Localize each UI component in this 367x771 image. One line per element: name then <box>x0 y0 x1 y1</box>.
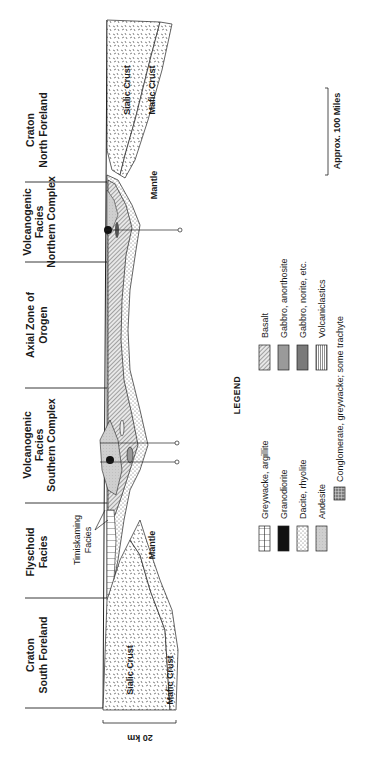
legend-label-andesite: Andesite <box>317 484 327 519</box>
legend: LEGEND Greywacke, argillite Granodiorite… <box>232 258 345 551</box>
label-mantle-south: Mantle <box>147 531 157 560</box>
scale-horizontal-label: Approx. 100 Miles <box>332 93 342 170</box>
label-timiskaming-line2: Facies <box>83 526 93 553</box>
legend-swatch-volcaniclastics <box>316 345 327 370</box>
zone-craton-north-line1: Craton <box>24 113 36 147</box>
scale-vertical-label: 20 km <box>127 733 153 743</box>
granodiorite-south <box>106 456 114 464</box>
scale-bar-horizontal: Approx. 100 Miles <box>325 88 342 175</box>
zone-volc-south-line2: Facies <box>33 429 45 462</box>
surface-line <box>103 20 107 708</box>
zone-volc-north-line1: Volcanogenic <box>21 188 33 256</box>
timiskaming-pointer <box>95 510 108 530</box>
legend-label-greywacke: Greywacke, argillite <box>260 440 270 519</box>
legend-swatch-granodiorite <box>278 526 289 551</box>
zone-volc-north-line2: Facies <box>33 206 45 239</box>
legend-swatch-gabbro-norite <box>297 345 308 370</box>
label-mafic-crust-south: Mafic Crust <box>165 655 175 704</box>
geological-cross-section: Craton North Foreland Volcanogenic Facie… <box>0 0 367 771</box>
zone-volc-south-line3: Southern Complex <box>45 398 57 492</box>
label-mafic-crust-north: Mafic Crust <box>147 65 157 114</box>
legend-swatch-basalt <box>259 345 270 370</box>
legend-label-dacite: Dacite, rhyolite <box>298 459 308 519</box>
legend-label-gabbro-anorthosite: Gabbro, anorthosite <box>279 258 289 338</box>
label-sialic-crust-south: Sialic Crust <box>125 645 135 695</box>
zone-flyschoid-line1: Flyschoid <box>24 527 36 576</box>
legend-label-conglomerate: Conglomerate, greywacke; some trachyte <box>335 316 345 482</box>
legend-label-gabbro-norite: Gabbro, norite, etc. <box>298 261 308 338</box>
zone-flyschoid-line2: Facies <box>37 536 49 569</box>
gabbro-lens-south-b <box>127 447 133 463</box>
scale-bar-vertical: 20 km <box>103 720 176 743</box>
label-sialic-crust-north: Sialic Crust <box>122 65 132 115</box>
legend-label-volcaniclastics: Volcaniclastics <box>317 279 327 338</box>
zone-axial-line1: Axial Zone of <box>24 292 36 358</box>
zone-labels: Craton North Foreland Volcanogenic Facie… <box>21 92 57 693</box>
legend-swatch-dacite <box>297 526 308 551</box>
zone-craton-south-line2: South Foreland <box>37 617 49 694</box>
label-mantle-north: Mantle <box>149 171 159 200</box>
label-timiskaming-line1: Timiskaming <box>72 515 82 565</box>
gabbro-lens-south-a <box>120 420 124 436</box>
legend-title: LEGEND <box>232 376 242 414</box>
zone-craton-north-line2: North Foreland <box>37 92 49 167</box>
legend-swatch-conglomerate <box>334 487 345 500</box>
legend-label-granodiorite: Granodiorite <box>279 469 289 519</box>
zone-axial-line2: Orogen <box>37 306 49 343</box>
legend-label-basalt: Basalt <box>260 312 270 338</box>
zone-craton-south-line1: Craton <box>24 638 36 672</box>
zone-volc-south-line1: Volcanogenic <box>21 411 33 479</box>
zone-volc-north-line3: Northern Complex <box>45 176 57 268</box>
legend-swatch-andesite <box>316 526 327 551</box>
legend-swatch-gabbro-anorthosite <box>278 345 289 370</box>
